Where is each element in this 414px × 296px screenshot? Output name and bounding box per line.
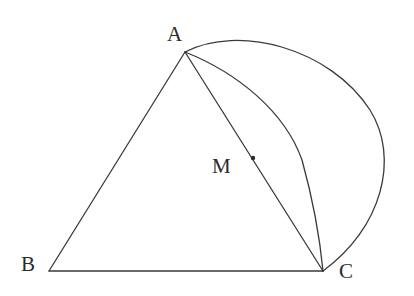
vertex-label-c: C bbox=[339, 261, 353, 282]
point-m-dot bbox=[251, 156, 255, 160]
vertex-label-a: A bbox=[167, 24, 182, 45]
point-label-m: M bbox=[212, 156, 231, 177]
segment-ab bbox=[49, 52, 185, 271]
vertex-label-b: B bbox=[21, 254, 35, 275]
geometry-canvas bbox=[0, 0, 414, 296]
geometry-figure: A B C M bbox=[0, 0, 414, 296]
